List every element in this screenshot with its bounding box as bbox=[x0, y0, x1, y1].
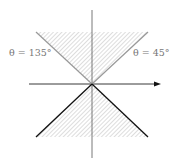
label-theta-45: θ = 45° bbox=[133, 47, 170, 58]
arrowhead-icon bbox=[154, 82, 161, 87]
label-theta-135: θ = 135° bbox=[9, 47, 52, 58]
diagram-canvas bbox=[0, 0, 177, 167]
